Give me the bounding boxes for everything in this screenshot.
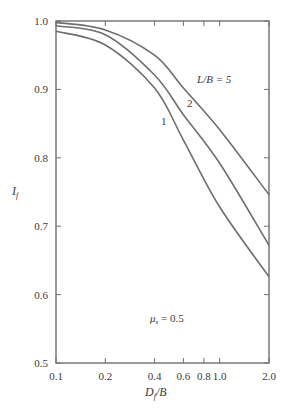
x-tick-label: 2.0 bbox=[262, 370, 276, 382]
curve-l-b-1 bbox=[56, 31, 269, 277]
curve-label-5: L/B = 5 bbox=[196, 73, 232, 85]
x-tick-label: 0.6 bbox=[177, 370, 191, 382]
y-axis-title: If bbox=[11, 184, 20, 200]
curve-l-b-2 bbox=[56, 26, 269, 246]
curve-l-b-5 bbox=[56, 22, 269, 194]
y-tick-label: 0.7 bbox=[34, 220, 48, 232]
y-tick-label: 1.0 bbox=[34, 15, 48, 27]
x-tick-label: 0.1 bbox=[49, 370, 63, 382]
curve-label-1: 1 bbox=[161, 115, 167, 127]
poisson-ratio-annotation: μs = 0.5 bbox=[149, 312, 184, 326]
curve-label-2: 2 bbox=[187, 97, 193, 109]
curves bbox=[56, 22, 269, 276]
axis-ticks: 0.10.20.40.60.81.02.00.50.60.70.80.91.0 bbox=[34, 15, 276, 382]
y-tick-label: 0.9 bbox=[34, 83, 48, 95]
x-axis-title: Df/B bbox=[144, 385, 167, 401]
chart: 0.10.20.40.60.81.02.00.50.60.70.80.91.0 … bbox=[0, 0, 291, 414]
y-tick-label: 0.6 bbox=[34, 289, 48, 301]
x-tick-label: 1.0 bbox=[213, 370, 227, 382]
x-tick-label: 0.2 bbox=[98, 370, 112, 382]
x-tick-label: 0.8 bbox=[197, 370, 211, 382]
y-tick-label: 0.8 bbox=[34, 152, 48, 164]
y-tick-label: 0.5 bbox=[34, 357, 48, 369]
x-tick-label: 0.4 bbox=[148, 370, 162, 382]
